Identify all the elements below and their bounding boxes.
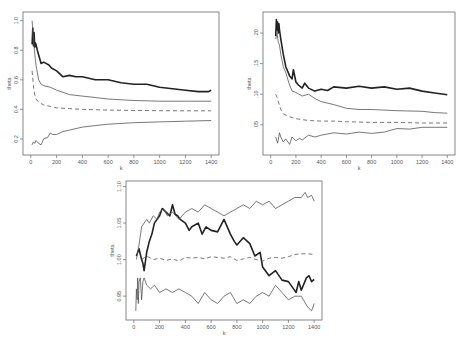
y-tick-label: 0.6 xyxy=(13,76,19,84)
series-line-lower xyxy=(276,127,448,144)
x-tick-label: 1200 xyxy=(282,324,294,330)
series-line-mean xyxy=(142,254,315,261)
x-tick-label: 1400 xyxy=(205,159,217,165)
x-tick-label: 800 xyxy=(232,324,241,330)
y-tick-label: 1.0 xyxy=(13,17,19,25)
plot-frame xyxy=(263,12,455,155)
x-tick-label: 1200 xyxy=(416,159,428,165)
x-tick-label: 200 xyxy=(291,159,300,165)
series-line-lower xyxy=(32,121,211,145)
y-axis-label: theta xyxy=(109,243,115,256)
y-tick-label: 1.10 xyxy=(116,181,122,192)
x-tick-label: 400 xyxy=(317,159,326,165)
y-tick-label: 0.95 xyxy=(116,291,122,302)
x-tick-label: 200 xyxy=(52,159,61,165)
x-tick-label: 800 xyxy=(367,159,376,165)
x-tick-label: 800 xyxy=(129,159,138,165)
series-line-lower xyxy=(136,278,314,311)
x-tick-label: 600 xyxy=(104,159,113,165)
y-axis-label: theta xyxy=(246,76,252,89)
x-tick-label: 1400 xyxy=(441,159,453,165)
x-tick-label: 0 xyxy=(269,159,272,165)
x-tick-label: 600 xyxy=(207,324,216,330)
series-line-upper xyxy=(32,28,211,92)
plot-frame xyxy=(126,181,322,320)
x-tick-label: 0 xyxy=(132,324,135,330)
chart-top-right: 0200400600800100012001400.05.10.15.20kth… xyxy=(246,12,455,171)
y-tick-label: 1.00 xyxy=(116,254,122,265)
x-tick-label: 1000 xyxy=(154,159,166,165)
x-axis-label: k xyxy=(223,330,226,336)
series-line-thick xyxy=(136,205,314,293)
series-line-upper xyxy=(276,20,448,95)
y-tick-label: .15 xyxy=(253,60,259,68)
series-line-mean xyxy=(276,94,448,123)
x-tick-label: 200 xyxy=(155,324,164,330)
x-axis-label: k xyxy=(358,165,361,171)
y-tick-label: 1.05 xyxy=(116,218,122,229)
series-line-middle xyxy=(32,21,211,102)
y-axis-label: theta xyxy=(6,76,12,89)
y-tick-label: 0.8 xyxy=(13,46,19,54)
y-tick-label: .20 xyxy=(253,29,259,37)
series-line-upper xyxy=(136,192,314,259)
y-tick-label: 0.2 xyxy=(13,135,19,143)
y-tick-label: .10 xyxy=(253,90,259,98)
chart-bottom-center: 02004006008001000120014000.951.001.051.1… xyxy=(109,181,322,336)
x-tick-label: 600 xyxy=(342,159,351,165)
x-tick-label: 1000 xyxy=(257,324,269,330)
y-tick-label: .05 xyxy=(253,121,259,129)
x-axis-label: k xyxy=(120,165,123,171)
x-tick-label: 1000 xyxy=(391,159,403,165)
series-line-middle xyxy=(276,33,448,113)
chart-top-left: 02004006008001000120014000.20.40.60.81.0… xyxy=(6,12,219,171)
x-tick-label: 400 xyxy=(181,324,190,330)
y-tick-label: 0.4 xyxy=(13,106,19,114)
x-tick-label: 0 xyxy=(29,159,32,165)
x-tick-label: 1200 xyxy=(179,159,191,165)
x-tick-label: 400 xyxy=(78,159,87,165)
figure-canvas: 02004006008001000120014000.20.40.60.81.0… xyxy=(0,0,464,341)
x-tick-label: 1400 xyxy=(308,324,320,330)
